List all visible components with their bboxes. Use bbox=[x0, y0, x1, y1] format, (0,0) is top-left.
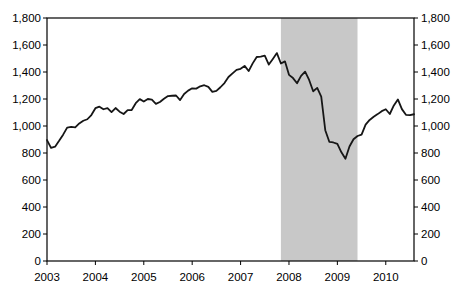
x-tick-label: 2006 bbox=[179, 271, 205, 283]
y-tick-label-left: 400 bbox=[22, 201, 41, 213]
y-tick-label-right: 800 bbox=[421, 147, 440, 159]
y-tick-label-right: 1,000 bbox=[421, 120, 450, 132]
x-tick-label: 2010 bbox=[373, 271, 399, 283]
y-tick-label-left: 1,200 bbox=[12, 93, 41, 105]
x-tick-label: 2004 bbox=[83, 271, 109, 283]
x-axis: 20032004200520062007200820092010 bbox=[34, 261, 398, 283]
x-tick-label: 2007 bbox=[228, 271, 254, 283]
x-tick-label: 2009 bbox=[325, 271, 351, 283]
x-tick-label: 2005 bbox=[131, 271, 157, 283]
y-tick-label-right: 600 bbox=[421, 174, 440, 186]
y-tick-label-right: 1,600 bbox=[421, 39, 450, 51]
plot-frame bbox=[47, 18, 414, 261]
chart-canvas: 002002004004006006008008001,0001,0001,20… bbox=[0, 0, 463, 300]
y-tick-label-left: 600 bbox=[22, 174, 41, 186]
y-tick-label-right: 400 bbox=[421, 201, 440, 213]
y-tick-label-left: 1,600 bbox=[12, 39, 41, 51]
y-tick-label-right: 1,200 bbox=[421, 93, 450, 105]
x-tick-label: 2003 bbox=[34, 271, 60, 283]
y-tick-label-left: 200 bbox=[22, 228, 41, 240]
y-axes: 002002004004006006008008001,0001,0001,20… bbox=[12, 12, 450, 267]
y-tick-label-left: 800 bbox=[22, 147, 41, 159]
recession-band bbox=[281, 18, 358, 261]
y-tick-label-right: 0 bbox=[421, 255, 427, 267]
index-line bbox=[47, 53, 414, 159]
y-tick-label-left: 1,000 bbox=[12, 120, 41, 132]
y-tick-label-left: 0 bbox=[35, 255, 41, 267]
y-tick-label-right: 1,800 bbox=[421, 12, 450, 24]
y-tick-label-right: 1,400 bbox=[421, 66, 450, 78]
y-tick-label-right: 200 bbox=[421, 228, 440, 240]
chart-figure: 002002004004006006008008001,0001,0001,20… bbox=[0, 0, 463, 300]
y-tick-label-left: 1,800 bbox=[12, 12, 41, 24]
y-tick-label-left: 1,400 bbox=[12, 66, 41, 78]
x-tick-label: 2008 bbox=[276, 271, 302, 283]
